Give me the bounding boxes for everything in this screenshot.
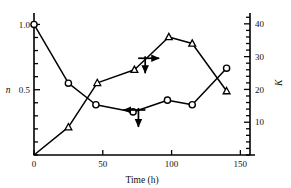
data-point-n-4: [164, 97, 170, 103]
series-line-K: [34, 37, 227, 155]
data-point-n-2: [93, 102, 99, 108]
left-axis-ticklabel-0.5: 0.5: [19, 85, 31, 95]
left-axis-ticklabel-1.0: 1.0: [19, 20, 31, 30]
right-axis-label: K: [274, 79, 284, 87]
x-axis-ticklabel-50: 50: [98, 159, 108, 169]
chart-figure: 0.51.0n10203040K050100150Time (h): [0, 0, 291, 188]
data-point-n-6: [224, 65, 230, 71]
right-axis-ticklabel-20: 20: [255, 85, 265, 95]
data-point-K-2: [94, 79, 101, 85]
data-point-n-0: [31, 21, 37, 27]
x-axis-ticklabel-0: 0: [32, 159, 37, 169]
right-axis-ticklabel-30: 30: [255, 52, 265, 62]
x-axis-ticklabel-100: 100: [165, 159, 179, 169]
data-point-K-5: [189, 40, 196, 46]
data-point-n-5: [189, 102, 195, 108]
right-axis-ticklabel-10: 10: [255, 117, 265, 127]
right-axis-ticklabel-40: 40: [255, 19, 265, 29]
left-axis-label: n: [6, 85, 11, 95]
series-line-n: [34, 24, 227, 111]
data-point-n-1: [65, 80, 71, 86]
dual-axis-line-chart: 0.51.0n10203040K050100150Time (h): [0, 0, 291, 188]
data-point-K-4: [165, 33, 172, 39]
x-axis-label: Time (h): [125, 175, 158, 186]
x-axis-ticklabel-150: 150: [234, 159, 248, 169]
